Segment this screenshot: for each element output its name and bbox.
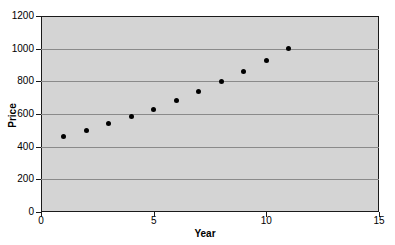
x-axis-tick-mark	[154, 212, 155, 217]
y-axis-tick-label: 200	[0, 174, 34, 184]
y-axis-tick-mark	[36, 49, 41, 50]
scatter-chart: 020040060080010001200 051015 Price Year	[0, 0, 395, 245]
x-axis-tick-label: 5	[139, 216, 169, 226]
data-point	[151, 107, 156, 112]
gridline	[41, 114, 379, 115]
y-axis-tick-label: 1200	[0, 11, 34, 21]
gridline	[41, 49, 379, 50]
x-axis-tick-mark	[266, 212, 267, 217]
x-axis-title: Year	[175, 228, 235, 239]
y-axis-tick-label: 1000	[0, 44, 34, 54]
x-axis-tick-label: 0	[26, 216, 56, 226]
data-point	[61, 134, 66, 139]
y-axis-tick-mark	[36, 81, 41, 82]
data-point	[264, 58, 269, 63]
x-axis-tick-mark	[379, 212, 380, 217]
x-axis-tick-mark	[41, 212, 42, 217]
x-axis-tick-label: 15	[364, 216, 394, 226]
y-axis-tick-mark	[36, 16, 41, 17]
y-axis-tick-mark	[36, 179, 41, 180]
data-point	[129, 114, 134, 119]
y-axis-tick-mark	[36, 114, 41, 115]
x-axis-tick-label: 10	[251, 216, 281, 226]
data-point	[219, 79, 224, 84]
gridline	[41, 147, 379, 148]
gridline	[41, 81, 379, 82]
data-point	[84, 128, 89, 133]
y-axis-title: Price	[7, 86, 18, 146]
y-axis-tick-mark	[36, 147, 41, 148]
data-point	[196, 89, 201, 94]
gridline	[41, 179, 379, 180]
